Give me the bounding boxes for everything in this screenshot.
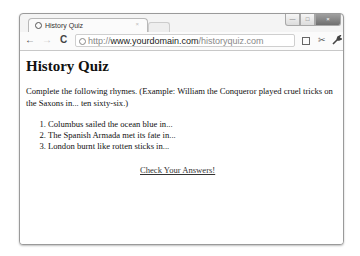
page-content: History Quiz Complete the following rhym… xyxy=(20,51,343,244)
page-favicon-icon xyxy=(35,22,42,29)
close-window-button[interactable]: × xyxy=(315,14,341,26)
browser-toolbar: ← → C http://www.yourdomain.com/historyq… xyxy=(20,32,343,51)
browser-window: History Quiz × — □ × ← → C http://www.yo… xyxy=(19,13,344,245)
address-bar[interactable]: http://www.yourdomain.com/historyquiz.co… xyxy=(75,34,295,47)
question-item: The Spanish Armada met its fate in... xyxy=(48,130,176,141)
window-controls: — □ × xyxy=(285,14,341,27)
question-list: Columbus sailed the ocean blue in... The… xyxy=(34,119,176,152)
page-title: History Quiz xyxy=(26,58,109,75)
url-host: www.yourdomain.com xyxy=(111,36,199,46)
wrench-menu-icon[interactable] xyxy=(332,35,342,48)
maximize-button[interactable]: □ xyxy=(300,14,315,26)
minimize-button[interactable]: — xyxy=(285,14,300,26)
back-arrow-icon[interactable]: ← xyxy=(25,34,35,46)
forward-arrow-icon[interactable]: → xyxy=(42,34,52,46)
check-answers-link[interactable]: Check Your Answers! xyxy=(140,165,215,175)
reload-icon[interactable]: C xyxy=(60,34,67,46)
tab-history-quiz[interactable]: History Quiz × xyxy=(28,18,148,33)
tab-close-icon[interactable]: × xyxy=(135,21,139,27)
title-bar: History Quiz × — □ × xyxy=(20,14,343,31)
page-menu-icon[interactable] xyxy=(302,37,310,45)
extension-icon[interactable]: ✂ xyxy=(318,35,326,46)
page-info-icon[interactable] xyxy=(79,38,86,45)
question-item: London burnt like rotten sticks in... xyxy=(48,141,176,152)
url-scheme: http:// xyxy=(88,36,111,46)
question-item: Columbus sailed the ocean blue in... xyxy=(48,119,176,130)
url-path: /historyquiz.com xyxy=(199,36,264,46)
tab-title: History Quiz xyxy=(45,22,83,29)
intro-text: Complete the following rhymes. (Example:… xyxy=(26,85,338,109)
